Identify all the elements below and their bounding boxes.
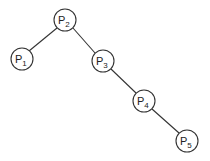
edge-p2-p1: [29, 28, 57, 51]
node-p5: P5: [176, 130, 198, 152]
edges: [29, 28, 179, 133]
edge-p3-p4: [111, 69, 136, 93]
tree-diagram: P2 P1 P3 P4 P5: [0, 0, 210, 161]
edge-p2-p3: [73, 28, 95, 53]
node-p2: P2: [54, 9, 76, 31]
node-p1: P1: [11, 48, 33, 70]
node-p4: P4: [133, 90, 155, 112]
edge-p4-p5: [152, 109, 179, 133]
tree-svg: P2 P1 P3 P4 P5: [0, 0, 210, 161]
node-p3: P3: [92, 50, 114, 72]
